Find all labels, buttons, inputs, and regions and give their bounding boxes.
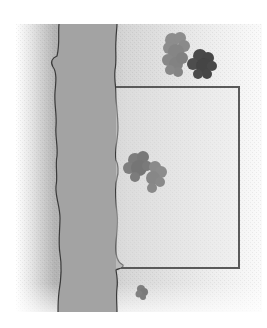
- strip: [52, 24, 124, 312]
- map-panel: [0, 0, 267, 328]
- map-canvas: [0, 0, 267, 328]
